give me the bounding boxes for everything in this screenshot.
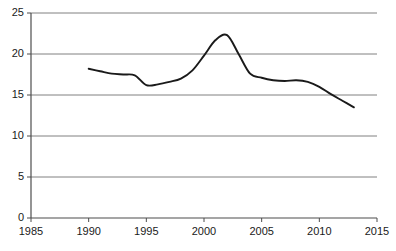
data-series-line (89, 34, 354, 107)
x-tick-label: 1985 (6, 226, 56, 237)
x-tick-marks-group (31, 218, 377, 222)
x-tick-label: 1995 (121, 226, 171, 237)
y-tick-label: 5 (18, 171, 24, 182)
y-tick-label: 0 (18, 212, 24, 223)
x-tick-label: 2000 (179, 226, 229, 237)
y-tick-label: 25 (12, 7, 24, 18)
line-chart: 0510152025 1985199019952000200520102015 (0, 0, 396, 251)
y-tick-label: 15 (12, 89, 24, 100)
x-tick-label: 1990 (64, 226, 114, 237)
chart-plot-area (0, 0, 396, 251)
y-tick-label: 20 (12, 48, 24, 59)
gridlines-group (31, 13, 377, 218)
x-tick-label: 2005 (237, 226, 287, 237)
y-tick-label: 10 (12, 130, 24, 141)
x-tick-label: 2010 (294, 226, 344, 237)
x-tick-label: 2015 (352, 226, 396, 237)
